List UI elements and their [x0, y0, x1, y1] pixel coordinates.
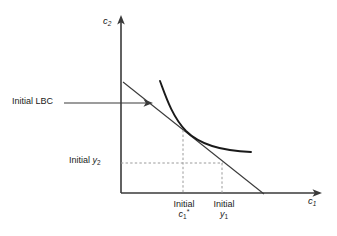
initial-y2-label: Initial y2	[69, 155, 101, 165]
initial-c1-star-line1: Initial	[163, 199, 205, 209]
initial-c1-star-superscript: *	[187, 208, 190, 215]
x-axis-label: c1	[308, 196, 316, 207]
initial-y1-subscript: 1	[224, 213, 228, 220]
x-axis-label-subscript: 1	[313, 200, 317, 207]
initial-y2-prefix: Initial	[69, 155, 93, 165]
initial-lbc-label-text: Initial LBC	[12, 96, 53, 106]
initial-y1-line2: y1	[203, 209, 245, 219]
initial-c1-star-label: Initial c1*	[163, 199, 205, 220]
initial-y1-label: Initial y1	[203, 199, 245, 220]
y-axis-label: c2	[103, 16, 111, 27]
initial-c1-star-line2: c1*	[163, 209, 205, 219]
y-axis-label-subscript: 2	[108, 20, 112, 27]
initial-y2-subscript: 2	[97, 159, 101, 166]
initial-y1-line1: Initial	[203, 199, 245, 209]
initial-lbc-label: Initial LBC	[12, 96, 53, 106]
